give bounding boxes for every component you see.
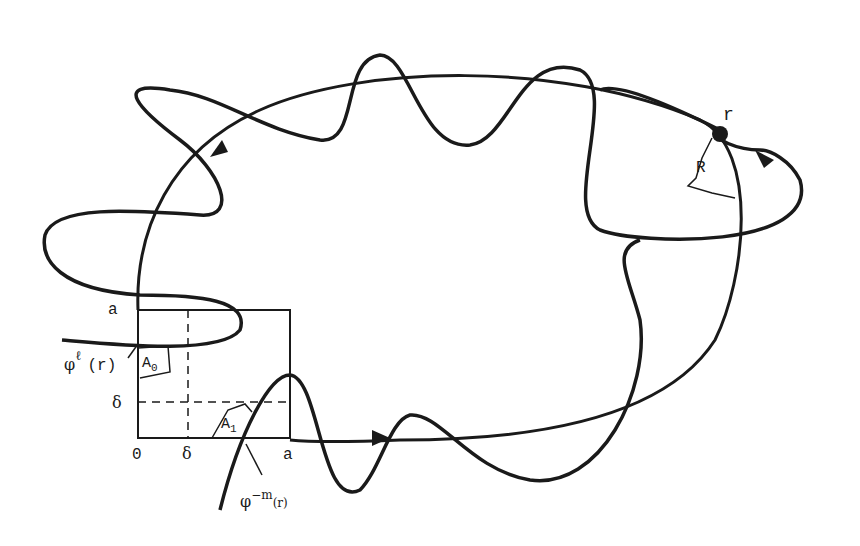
label-a-x: a bbox=[283, 446, 293, 464]
fixed-point-r bbox=[712, 126, 728, 142]
arrow-left-upper bbox=[210, 140, 228, 157]
lower-wavy-curve bbox=[220, 240, 641, 510]
wavy-manifold-curve bbox=[44, 55, 801, 346]
label-A0: A0 bbox=[142, 355, 158, 374]
main-loop-curve bbox=[138, 76, 741, 442]
label-a-y: a bbox=[108, 301, 118, 319]
label-r: r bbox=[723, 105, 734, 125]
label-delta-y: δ bbox=[112, 393, 122, 412]
label-phi-m: φ−m(r) bbox=[240, 488, 288, 511]
label-R: R bbox=[696, 159, 706, 177]
tangle-diagram: r R a δ 0 δ a A0 A1 φℓ(r) φ−m(r) bbox=[0, 0, 860, 546]
label-A1: A1 bbox=[221, 416, 237, 435]
pointer-phi-m bbox=[246, 444, 262, 475]
label-origin: 0 bbox=[132, 446, 142, 464]
label-phi-l: φℓ(r) bbox=[64, 348, 116, 375]
label-delta-x: δ bbox=[182, 444, 192, 463]
